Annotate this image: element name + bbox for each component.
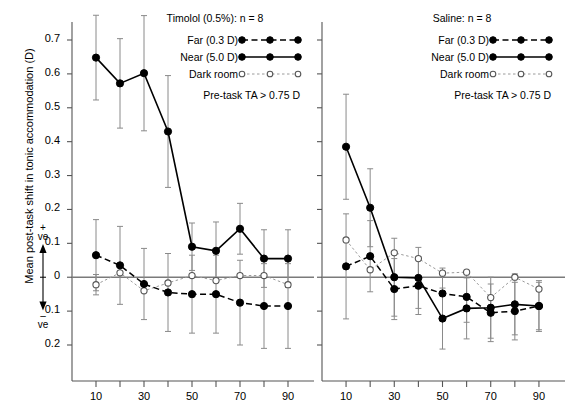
legend-panel-title-saline: Saline: n = 8 (372, 12, 552, 24)
data-point (439, 315, 446, 322)
data-point (367, 253, 374, 260)
legend-marker (267, 71, 273, 77)
legend-marker (267, 54, 274, 61)
legend-marker (490, 54, 497, 61)
data-point (488, 294, 494, 300)
chart-canvas (0, 0, 566, 420)
legend-label-far-0-3-d: Far (0.3 D) (339, 34, 489, 46)
data-point (140, 280, 147, 287)
data-point (463, 305, 470, 312)
y-tick-label: 0.5 (34, 100, 60, 112)
data-point (511, 301, 518, 308)
data-point (116, 262, 123, 269)
legend-marker (490, 71, 496, 77)
data-point (164, 289, 171, 296)
y-tick-label: 0.1 (34, 303, 60, 315)
data-point (463, 293, 470, 300)
x-tick-label: 50 (430, 390, 456, 402)
y-tick-label: 0.3 (34, 168, 60, 180)
legend-marker (518, 71, 524, 77)
data-point (487, 304, 494, 311)
data-point (116, 80, 123, 87)
data-point (260, 255, 267, 262)
legend-note-timolol: Pre-task TA > 0.75 D (130, 89, 300, 101)
data-point (415, 255, 421, 261)
x-tick-label: 90 (275, 390, 301, 402)
x-tick-label: 70 (478, 390, 504, 402)
data-point (165, 280, 171, 286)
data-point (93, 282, 99, 288)
data-point (213, 278, 219, 284)
data-point (367, 204, 374, 211)
legend-label-dark-room: Dark room (88, 68, 238, 80)
figure-root: Mean post-task shift in tonic accommodat… (0, 0, 566, 420)
legend-marker (295, 54, 302, 61)
data-point (391, 250, 397, 256)
data-point (236, 299, 243, 306)
legend-marker (239, 71, 245, 77)
data-point (261, 272, 267, 278)
legend-label-far-0-3-d: Far (0.3 D) (88, 34, 238, 46)
legend-marker (239, 37, 246, 44)
data-point (236, 225, 243, 232)
data-point (342, 263, 349, 270)
data-point (92, 252, 99, 259)
data-point (391, 285, 398, 292)
x-tick-label: 90 (526, 390, 552, 402)
data-point (117, 270, 123, 276)
legend-note-saline: Pre-task TA > 0.75 D (381, 89, 551, 101)
data-point (439, 270, 445, 276)
x-tick-label: 10 (83, 390, 109, 402)
data-point (260, 302, 267, 309)
data-point (141, 288, 147, 294)
data-point (188, 291, 195, 298)
data-point (212, 247, 219, 254)
data-point (439, 290, 446, 297)
data-point (391, 274, 398, 281)
data-point (343, 237, 349, 243)
y-tick-label: 0.2 (34, 201, 60, 213)
data-point (188, 243, 195, 250)
data-point (512, 274, 518, 280)
data-point (535, 302, 542, 309)
legend-marker (295, 71, 301, 77)
legend-marker (546, 71, 552, 77)
x-tick-label: 10 (333, 390, 359, 402)
data-point (164, 128, 171, 135)
legend-marker (490, 37, 497, 44)
legend-marker (546, 37, 553, 44)
y-tick-label: 0 (34, 269, 60, 281)
y-tick-label: 0.1 (34, 235, 60, 247)
x-tick-label: 50 (179, 390, 205, 402)
data-point (285, 282, 291, 288)
legend-marker (518, 37, 525, 44)
data-point (342, 143, 349, 150)
legend-marker (546, 54, 553, 61)
data-point (284, 255, 291, 262)
data-point (464, 269, 470, 275)
y-tick-label: 0.7 (34, 32, 60, 44)
legend-label-near-5-0-d: Near (5.0 D) (88, 51, 238, 63)
y-tick-label: 0.2 (34, 337, 60, 349)
x-tick-label: 30 (131, 390, 157, 402)
data-point (284, 302, 291, 309)
legend-marker (267, 37, 274, 44)
data-point (189, 272, 195, 278)
data-point (237, 272, 243, 278)
data-point (367, 267, 373, 273)
legend-marker (518, 54, 525, 61)
legend-label-near-5-0-d: Near (5.0 D) (339, 51, 489, 63)
x-tick-label: 70 (227, 390, 253, 402)
data-point (212, 291, 219, 298)
legend-marker (295, 37, 302, 44)
data-point (511, 308, 518, 315)
legend-panel-title-timolol: Timolol (0.5%): n = 8 (125, 12, 305, 24)
legend-marker (239, 54, 246, 61)
x-tick-label: 30 (381, 390, 407, 402)
legend-label-dark-room: Dark room (339, 68, 489, 80)
y-tick-label: 0.4 (34, 134, 60, 146)
y-tick-label: 0.6 (34, 66, 60, 78)
data-point (415, 274, 422, 281)
data-point (536, 286, 542, 292)
